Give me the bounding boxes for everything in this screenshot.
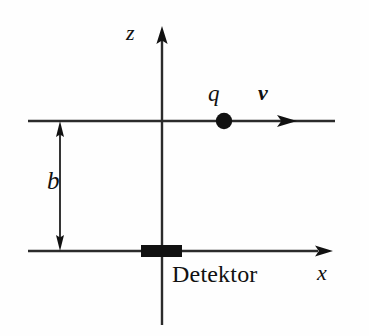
impact-parameter-label: b [47, 168, 60, 193]
particle-trajectory [28, 115, 335, 127]
detector-label: Detektor [172, 262, 258, 286]
detector-block [141, 245, 182, 257]
charge-dot [216, 113, 232, 129]
x-axis-label: x [317, 262, 327, 284]
physics-diagram: z x b q v Detektor [0, 0, 369, 336]
z-axis-label: z [126, 22, 135, 44]
z-axis [156, 26, 167, 325]
velocity-label: v [258, 82, 268, 104]
charge-label: q [208, 82, 220, 105]
